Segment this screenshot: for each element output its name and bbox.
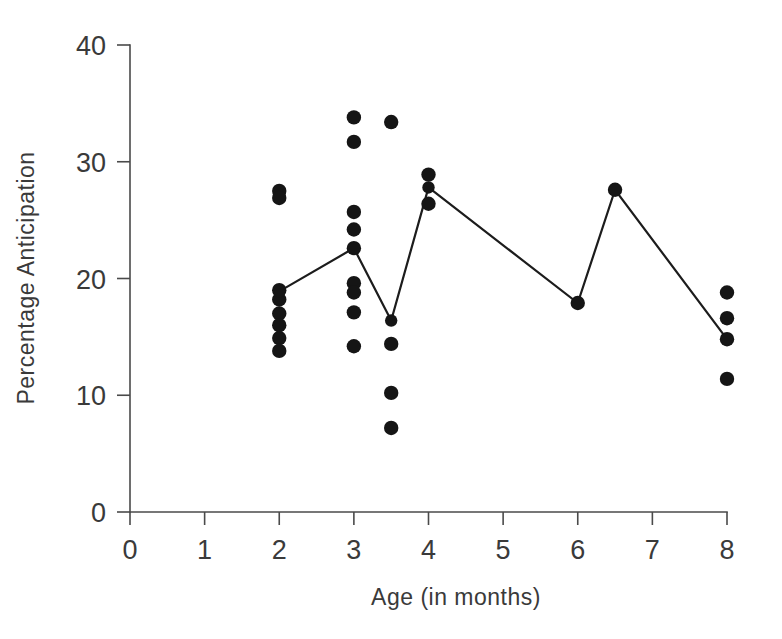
data-point: [384, 386, 398, 400]
data-point: [272, 344, 286, 358]
x-tick-label: 7: [645, 535, 660, 565]
y-tick-label: 10: [76, 381, 106, 411]
trend-line: [279, 187, 727, 339]
y-tick-label: 0: [91, 498, 106, 528]
y-axis-ticks: [117, 45, 130, 512]
y-tick-label: 20: [76, 265, 106, 295]
y-axis-title: Percentage Anticipation: [13, 151, 39, 404]
data-point: [347, 222, 361, 236]
trend-line-vertex: [422, 181, 434, 193]
chart-canvas: 010203040 012345678 Age (in months) Perc…: [0, 0, 782, 639]
y-axis: 010203040: [76, 31, 130, 528]
data-point: [720, 285, 734, 299]
data-point: [272, 318, 286, 332]
x-tick-label: 8: [719, 535, 734, 565]
y-axis-tick-labels: 010203040: [76, 31, 106, 528]
data-point: [720, 372, 734, 386]
data-point: [384, 421, 398, 435]
trend-line-group: [279, 187, 727, 339]
x-axis-ticks: [130, 512, 727, 525]
data-point: [272, 191, 286, 205]
data-point: [347, 110, 361, 124]
trend-line-vertex: [273, 285, 285, 297]
data-point: [272, 331, 286, 345]
data-point: [720, 311, 734, 325]
trend-line-vertex: [348, 242, 360, 254]
trend-line-vertex: [385, 314, 397, 326]
x-tick-label: 4: [421, 535, 436, 565]
scatter-plot-figure: 010203040 012345678 Age (in months) Perc…: [0, 0, 782, 639]
data-point-group: [272, 110, 734, 435]
data-point: [421, 167, 435, 181]
x-axis-title: Age (in months): [371, 584, 541, 610]
trend-line-vertex: [572, 297, 584, 309]
data-point: [347, 339, 361, 353]
trend-line-vertex: [609, 184, 621, 196]
y-tick-label: 30: [76, 148, 106, 178]
data-point: [347, 135, 361, 149]
data-point: [384, 337, 398, 351]
x-tick-label: 1: [197, 535, 212, 565]
x-tick-label: 5: [496, 535, 511, 565]
x-tick-label: 3: [346, 535, 361, 565]
data-point: [347, 285, 361, 299]
x-tick-label: 0: [122, 535, 137, 565]
trend-line-vertex: [721, 333, 733, 345]
x-axis-tick-labels: 012345678: [122, 535, 734, 565]
x-tick-label: 6: [570, 535, 585, 565]
y-tick-label: 40: [76, 31, 106, 61]
x-axis: 012345678: [122, 512, 734, 565]
data-point: [421, 197, 435, 211]
data-point: [347, 205, 361, 219]
data-point: [384, 115, 398, 129]
x-tick-label: 2: [272, 535, 287, 565]
data-point: [347, 305, 361, 319]
